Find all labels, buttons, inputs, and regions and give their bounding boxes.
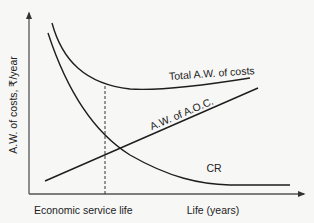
aoc-line xyxy=(45,88,258,181)
y-axis-label: A.W. of costs, ₹/year xyxy=(7,56,19,154)
total-aw-curve xyxy=(52,23,250,89)
economic-life-chart: Total A.W. of costs A.W. of A.O.C. CR Ec… xyxy=(0,0,314,223)
cr-label: CR xyxy=(206,162,222,174)
x-axis-label: Life (years) xyxy=(187,204,240,216)
aoc-label: A.W. of A.O.C. xyxy=(148,95,215,132)
cr-curve xyxy=(48,33,290,185)
economic-life-label: Economic service life xyxy=(34,204,133,216)
